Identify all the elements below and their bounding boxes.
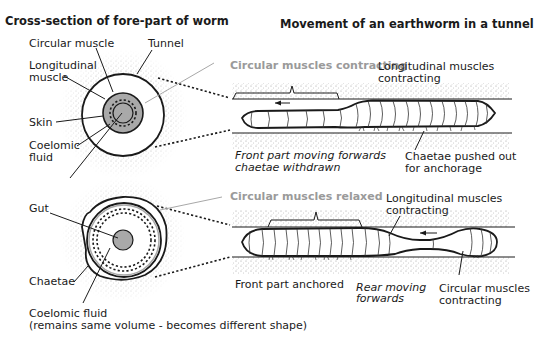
label-volume-note: (remains same volume - becomes different… — [29, 319, 307, 332]
worm-contracted — [242, 228, 497, 256]
label-circular-relaxed: Circular muscles relaxed — [230, 190, 383, 203]
label-longitudinal-2: muscle — [29, 71, 69, 84]
label-longitudinal-top-2: contracting — [378, 72, 441, 85]
tunnel-top — [232, 83, 512, 150]
label-circular-contracting-bottom-2: contracting — [439, 294, 502, 307]
label-tunnel: Tunnel — [147, 37, 184, 50]
label-longitudinal-bottom-2: contracting — [386, 204, 449, 217]
label-front-anchored: Front part anchored — [235, 278, 344, 291]
label-rear-moving-2: forwards — [356, 292, 404, 305]
earthworm-diagram: Cross-section of fore-part of worm Movem… — [0, 0, 546, 353]
label-gut: Gut — [29, 202, 49, 215]
label-chaetae: Chaetae — [29, 275, 75, 288]
cross-section-top — [82, 74, 164, 156]
gut — [113, 230, 133, 250]
cross-section-bottom — [82, 197, 167, 280]
label-chaetae-pushed-2: for anchorage — [405, 162, 482, 175]
label-skin: Skin — [29, 116, 52, 129]
label-coelomic-2: fluid — [29, 151, 53, 164]
label-front-moving-2: chaetae withdrawn — [235, 161, 340, 174]
tunnel-bottom — [232, 210, 515, 275]
label-circular-muscle: Circular muscle — [29, 37, 114, 50]
